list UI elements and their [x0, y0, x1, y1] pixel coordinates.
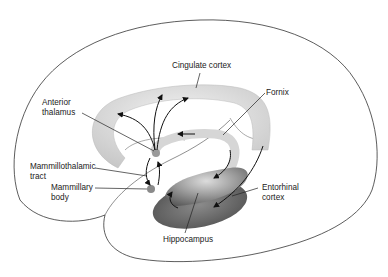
label-anterior-thalamus: Anterior thalamus	[42, 98, 75, 117]
brain-diagram: Cingulate cortex Fornix Anterior thalamu…	[0, 0, 388, 277]
label-mammillary-body-line2: body	[51, 193, 93, 203]
label-mammillothalamic-tract-line1: Mammillothalamic	[30, 162, 96, 172]
label-hippocampus: Hippocampus	[163, 235, 213, 245]
label-mammillary-body-line1: Mammillary	[51, 183, 93, 193]
label-mammillothalamic-tract-line2: tract	[30, 172, 96, 182]
label-mammillothalamic-tract: Mammillothalamic tract	[30, 162, 96, 181]
label-entorhinal-cortex-line1: Entorhinal	[262, 183, 299, 193]
cingulate-cortex	[92, 85, 270, 168]
label-anterior-thalamus-line2: thalamus	[42, 108, 75, 118]
label-cingulate-cortex: Cingulate cortex	[172, 61, 231, 71]
label-entorhinal-cortex-line2: cortex	[262, 193, 299, 203]
label-fornix: Fornix	[266, 88, 289, 98]
label-anterior-thalamus-line1: Anterior	[42, 98, 75, 108]
mammillary-body-node	[147, 185, 155, 193]
label-entorhinal-cortex: Entorhinal cortex	[262, 183, 299, 202]
label-mammillary-body: Mammillary body	[51, 183, 93, 202]
hippocampus	[148, 168, 251, 237]
